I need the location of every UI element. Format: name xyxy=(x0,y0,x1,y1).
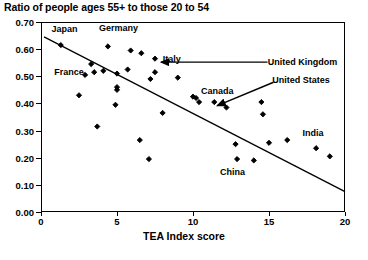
x-tick-mark xyxy=(41,212,42,216)
y-tick-mark xyxy=(36,49,41,50)
y-tick-label: 0.30 xyxy=(16,125,35,136)
y-tick-label: 0.60 xyxy=(16,44,35,55)
x-tick-mark xyxy=(117,212,118,216)
y-tick-label: 0.10 xyxy=(16,179,35,190)
y-axis: 0.000.100.200.300.400.500.600.70 xyxy=(0,16,41,216)
point-label: United States xyxy=(272,75,330,85)
x-tick-mark xyxy=(269,212,270,216)
x-tick-label: 10 xyxy=(188,216,199,227)
x-tick-mark xyxy=(345,212,346,216)
point-label: Japan xyxy=(52,24,78,34)
point-label: India xyxy=(303,128,324,138)
chart-container: Ratio of people ages 55+ to those 20 to … xyxy=(0,0,368,260)
y-tick-label: 0.00 xyxy=(16,207,35,218)
y-tick-label: 0.70 xyxy=(16,17,35,28)
point-label: France xyxy=(54,67,84,77)
y-tick-mark xyxy=(36,158,41,159)
point-label: Italy xyxy=(163,54,181,64)
y-tick-mark xyxy=(36,185,41,186)
x-tick-label: 20 xyxy=(340,216,351,227)
y-tick-mark xyxy=(36,22,41,23)
y-tick-label: 0.50 xyxy=(16,71,35,82)
y-tick-mark xyxy=(36,131,41,132)
chart-title: Ratio of people ages 55+ to those 20 to … xyxy=(4,1,209,13)
x-tick-label: 5 xyxy=(114,216,119,227)
y-tick-mark xyxy=(36,103,41,104)
x-tick-mark xyxy=(193,212,194,216)
point-label: Germany xyxy=(99,23,138,33)
y-tick-label: 0.20 xyxy=(16,152,35,163)
point-label: China xyxy=(220,167,245,177)
plot-area xyxy=(41,22,345,212)
point-label: United Kingdom xyxy=(268,57,338,67)
x-tick-label: 15 xyxy=(264,216,275,227)
x-tick-label: 0 xyxy=(38,216,43,227)
point-label: Canada xyxy=(201,86,234,96)
x-axis-title: TEA Index score xyxy=(0,230,368,242)
y-tick-mark xyxy=(36,76,41,77)
y-tick-label: 0.40 xyxy=(16,98,35,109)
